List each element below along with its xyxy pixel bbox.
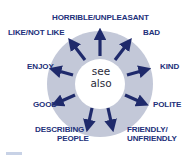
label-like-not-like: LIKE/NOT LIKE [8,28,64,37]
corner-mark [6,152,22,155]
label-bad: BAD [143,28,160,37]
center-line-2: also [82,77,120,89]
label-horrible-unpleasant: HORRIBLE/UNPLEASANT [52,13,149,22]
label-kind: KIND [160,62,179,71]
label-unfriendly: UNFRIENDLY [127,134,177,143]
label-friendly: FRIENDLY/ [127,125,168,134]
center-label: see also [82,65,120,89]
label-enjoy: ENJOY [27,62,54,71]
label-good: GOOD [33,100,57,109]
label-describing: DESCRIBING [35,125,84,134]
label-people: PEOPLE [57,134,89,143]
label-polite: POLITE [153,100,181,109]
center-line-1: see [82,65,120,77]
